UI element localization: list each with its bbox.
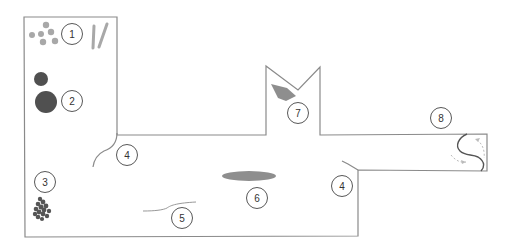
label-markers: 123445678 bbox=[35, 24, 452, 229]
label-marker-1: 1 bbox=[62, 24, 83, 45]
arrow-head-icons bbox=[461, 138, 480, 164]
label-number: 3 bbox=[42, 177, 48, 188]
label-marker-6: 6 bbox=[247, 188, 268, 209]
item-1-strokes bbox=[93, 24, 107, 48]
item-8-s-curve bbox=[458, 134, 484, 171]
item-4-curve-left bbox=[93, 133, 117, 167]
label-marker-3: 3 bbox=[35, 172, 56, 193]
label-marker-7: 7 bbox=[288, 103, 309, 124]
label-number: 6 bbox=[254, 193, 260, 204]
floor-plan-diagram: 123445678 bbox=[0, 0, 512, 248]
label-number: 4 bbox=[124, 150, 130, 161]
label-number: 1 bbox=[69, 29, 75, 40]
item-8-arrows bbox=[451, 140, 484, 162]
label-number: 5 bbox=[179, 213, 185, 224]
item-1-dots bbox=[29, 22, 58, 45]
label-marker-5: 5 bbox=[172, 208, 193, 229]
label-number: 2 bbox=[69, 96, 75, 107]
label-number: 8 bbox=[438, 113, 444, 124]
label-marker-4: 4 bbox=[117, 145, 138, 166]
item-3-cluster bbox=[33, 197, 51, 221]
label-marker-2: 2 bbox=[62, 91, 83, 112]
label-number: 4 bbox=[339, 181, 345, 192]
item-4-line-right bbox=[342, 161, 358, 170]
label-marker-8: 8 bbox=[431, 108, 452, 129]
label-number: 7 bbox=[295, 108, 301, 119]
item-7-wedge bbox=[271, 84, 296, 101]
label-marker-4: 4 bbox=[332, 176, 353, 197]
item-2-circles bbox=[34, 72, 57, 113]
item-6-ellipse bbox=[222, 171, 276, 181]
